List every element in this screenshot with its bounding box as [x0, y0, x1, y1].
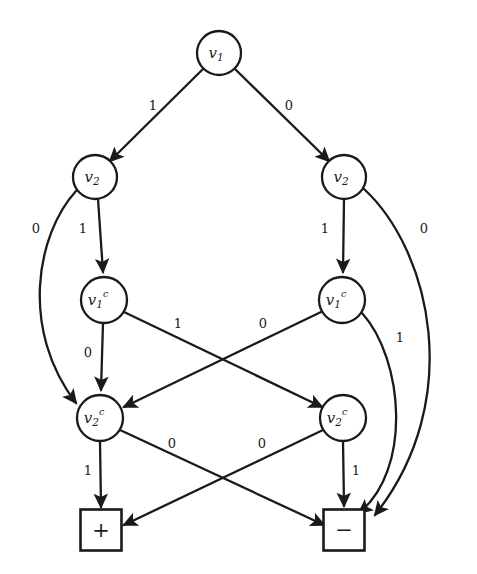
decision-diagram-canvas: 1 0 1 0 1 0 0 1 0 1 1 0 0 1 v1: [0, 0, 477, 574]
node-v1c-left[interactable]: v1c: [81, 277, 127, 323]
decision-diagram-graph: 1 0 1 0 1 0 0 1 0 1 1 0 0 1 v1: [0, 0, 477, 574]
node-v1c-right[interactable]: v1c: [319, 277, 365, 323]
terminal-minus-glyph: −: [335, 518, 353, 542]
node-layer: v1 v2 v2 v1c: [73, 31, 366, 551]
edge-v2c-left-to-plus: [100, 441, 101, 507]
terminal-plus-glyph: +: [92, 518, 110, 542]
edge-label-v2-right-to-v1c-right: 1: [321, 221, 329, 236]
edge-label-v1c-right-to-v2c-left: 0: [259, 316, 267, 331]
edge-label-v2c-right-to-plus: 0: [258, 436, 266, 451]
node-v1[interactable]: v1: [197, 31, 241, 75]
edge-v2c-right-to-minus: [343, 441, 344, 506]
edge-label-v2c-right-to-minus: 1: [352, 463, 360, 478]
edge-v1-to-v2-left: [110, 69, 203, 161]
edge-v1c-left-to-v2c-left: [101, 323, 103, 390]
node-v2c-left[interactable]: v2c: [77, 395, 123, 441]
edge-v1-to-v2-right: [235, 69, 329, 161]
edge-label-v2-right-to-minus: 0: [420, 221, 428, 236]
edge-label-v1-to-v2-right: 0: [285, 98, 293, 113]
edge-label-v1c-left-to-v2c-right: 1: [174, 316, 182, 331]
edge-label-v2-left-to-v1c-left: 1: [79, 221, 87, 236]
terminal-minus[interactable]: −: [324, 510, 365, 551]
terminal-plus[interactable]: +: [81, 510, 122, 551]
edge-v2-left-to-v2c-left: [40, 191, 76, 403]
node-v2-left[interactable]: v2: [73, 155, 117, 199]
node-v2c-right[interactable]: v2c: [320, 395, 366, 441]
node-v2-right[interactable]: v2: [322, 155, 366, 199]
edge-label-v2c-left-to-minus: 0: [168, 436, 176, 451]
edge-label-v1c-left-to-v2c-left: 0: [84, 345, 92, 360]
edge-v2-left-to-v1c-left: [98, 199, 103, 272]
edge-label-v2-left-to-v2c-left: 0: [32, 221, 40, 236]
edge-label-v1-to-v2-left: 1: [149, 98, 157, 113]
edge-label-v2c-left-to-plus: 1: [84, 463, 92, 478]
edge-label-v1c-right-to-minus: 1: [396, 330, 404, 345]
edge-v2-right-to-v1c-right: [343, 199, 344, 272]
edge-v2-right-to-minus: [364, 189, 430, 515]
